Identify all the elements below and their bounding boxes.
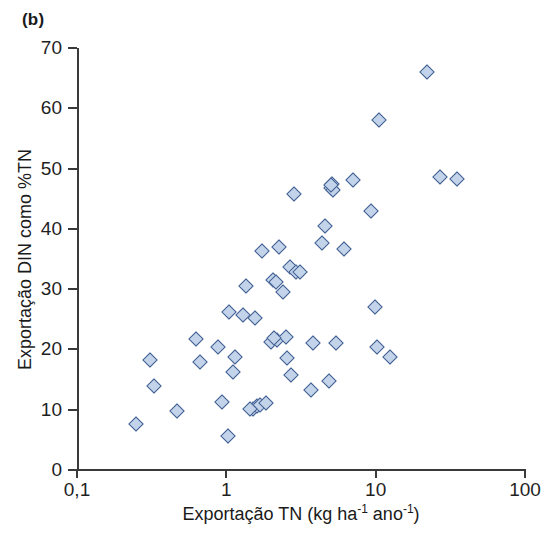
data-point [432, 169, 448, 185]
x-tick-mark [375, 469, 377, 478]
data-point [238, 278, 254, 294]
x-tick-label: 0,1 [64, 480, 90, 499]
y-tick-mark [68, 47, 77, 49]
data-point [225, 364, 241, 380]
data-point [369, 339, 385, 355]
data-point [322, 374, 338, 390]
x-axis-title-exponent-2: -1 [403, 502, 414, 516]
data-point [170, 403, 186, 419]
data-point [254, 243, 270, 259]
y-tick-mark [68, 228, 77, 230]
x-axis-title-suffix: ) [414, 504, 420, 524]
data-point [228, 349, 244, 365]
x-tick-label: 100 [509, 480, 541, 499]
data-point [279, 351, 295, 367]
data-point [449, 172, 465, 188]
y-tick-mark [68, 288, 77, 290]
x-tick-mark [76, 469, 78, 478]
data-point [143, 352, 159, 368]
x-axis-title-exponent-1: -1 [357, 502, 368, 516]
data-point [129, 416, 145, 432]
y-tick-mark [68, 107, 77, 109]
data-point [372, 113, 388, 129]
data-point [318, 218, 334, 234]
data-point [305, 336, 321, 352]
x-tick-label: 1 [221, 480, 232, 499]
data-point [367, 299, 383, 315]
data-point [382, 349, 398, 365]
data-point [303, 383, 319, 399]
scatter-plot-figure: (b) 010203040506070 0,1110100 Exportação… [0, 0, 558, 537]
data-point [286, 187, 302, 203]
x-axis-title-prefix: Exportação TN (kg ha [182, 504, 357, 524]
data-point [210, 339, 226, 355]
y-axis-title: Exportação DIN como %TN [12, 48, 38, 471]
data-point [283, 368, 299, 384]
y-tick-mark [68, 348, 77, 350]
data-point [147, 378, 163, 394]
data-point [345, 172, 361, 188]
data-point [328, 336, 344, 352]
plot-area [77, 48, 525, 470]
x-tick-label: 10 [365, 480, 386, 499]
data-point [214, 394, 230, 410]
data-point [193, 354, 209, 370]
data-point [271, 239, 287, 255]
x-tick-mark [225, 469, 227, 478]
data-point [419, 64, 435, 80]
y-tick-mark [68, 409, 77, 411]
x-axis-title-middle: ano [368, 504, 403, 524]
data-point [336, 242, 352, 258]
data-point [189, 331, 205, 347]
data-point [220, 428, 236, 444]
y-tick-mark [68, 168, 77, 170]
x-axis-title: Exportação TN (kg ha-1 ano-1) [77, 503, 525, 525]
x-tick-mark [524, 469, 526, 478]
data-point [222, 304, 238, 320]
data-point [315, 236, 331, 252]
panel-label: (b) [22, 10, 44, 30]
data-point [363, 203, 379, 219]
